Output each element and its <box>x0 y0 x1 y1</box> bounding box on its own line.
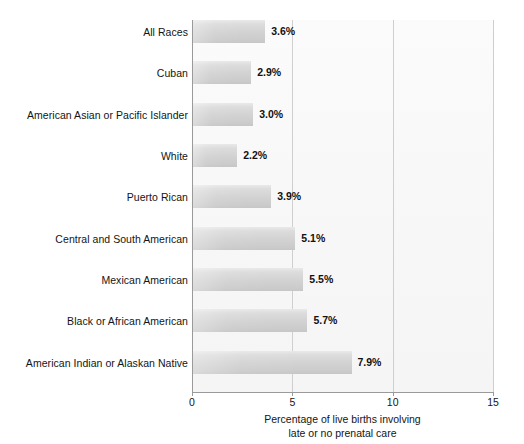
category-label: American Indian or Alaskan Native <box>26 351 188 375</box>
bar-row: All Races3.6% <box>0 20 524 44</box>
bar-value-label: 5.5% <box>309 268 333 291</box>
category-label: Black or African American <box>67 309 188 333</box>
x-tick-label-10: 10 <box>373 396 413 408</box>
category-label: All Races <box>143 20 188 44</box>
bar-value-label: 2.9% <box>257 61 281 84</box>
bar <box>193 185 271 208</box>
category-label: Mexican American <box>101 268 188 292</box>
category-label: Puerto Rican <box>127 185 188 209</box>
bar <box>193 103 253 126</box>
bar-value-label: 3.9% <box>277 185 301 208</box>
bar-row: White2.2% <box>0 144 524 168</box>
category-label: American Asian or Pacific Islander <box>27 103 188 127</box>
bar <box>193 144 237 167</box>
bar-row: Black or African American5.7% <box>0 309 524 333</box>
bar-row: Cuban2.9% <box>0 61 524 85</box>
x-axis-title-line2: late or no prenatal care <box>192 426 493 440</box>
bar <box>193 268 303 291</box>
bar-value-label: 5.7% <box>313 309 337 332</box>
x-axis-title: Percentage of live births involving late… <box>192 412 493 440</box>
bar-value-label: 2.2% <box>243 144 267 167</box>
bar-row: Central and South American5.1% <box>0 227 524 251</box>
bar-chart: All Races3.6%Cuban2.9%American Asian or … <box>0 0 524 444</box>
x-axis-line <box>192 392 493 393</box>
x-axis-title-line1: Percentage of live births involving <box>192 412 493 426</box>
bar-row: American Asian or Pacific Islander3.0% <box>0 103 524 127</box>
bar-row: American Indian or Alaskan Native7.9% <box>0 351 524 375</box>
category-label: White <box>161 144 188 168</box>
bar-row: Mexican American5.5% <box>0 268 524 292</box>
x-tick-label-0: 0 <box>172 396 212 408</box>
bar-value-label: 5.1% <box>301 227 325 250</box>
bar <box>193 227 295 250</box>
bar <box>193 20 265 43</box>
bar-value-label: 3.0% <box>259 103 283 126</box>
bar <box>193 309 307 332</box>
bar-value-label: 7.9% <box>358 351 382 374</box>
bar <box>193 61 251 84</box>
bar-row: Puerto Rican3.9% <box>0 185 524 209</box>
bar-value-label: 3.6% <box>271 20 295 43</box>
category-label: Central and South American <box>55 227 188 251</box>
x-tick-label-15: 15 <box>473 396 513 408</box>
x-tick-label-5: 5 <box>272 396 312 408</box>
category-label: Cuban <box>157 61 188 85</box>
bar <box>193 351 352 374</box>
